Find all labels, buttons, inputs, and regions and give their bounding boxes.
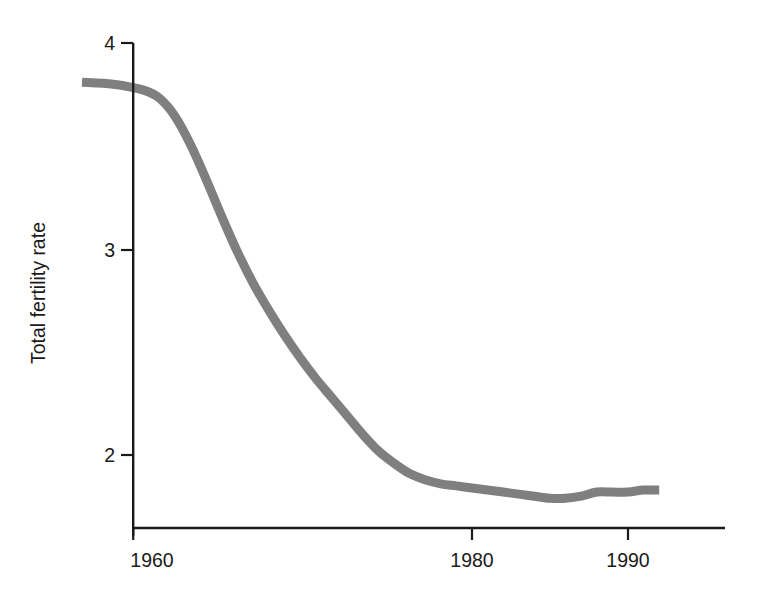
series-line-total-fertility-rate	[82, 82, 659, 498]
fertility-rate-line-chart: 4 3 2 1960 1980 1990 Total fertility rat…	[0, 0, 757, 595]
x-tick-label-1980: 1980	[450, 549, 494, 571]
y-tick-label-3: 3	[104, 239, 115, 261]
chart-canvas: 4 3 2 1960 1980 1990 Total fertility rat…	[0, 0, 757, 595]
y-axis-title: Total fertility rate	[27, 222, 49, 364]
y-tick-label-2: 2	[104, 444, 115, 466]
y-tick-label-4: 4	[104, 32, 115, 54]
x-tick-label-1960: 1960	[130, 549, 174, 571]
x-tick-label-1990: 1990	[606, 549, 650, 571]
